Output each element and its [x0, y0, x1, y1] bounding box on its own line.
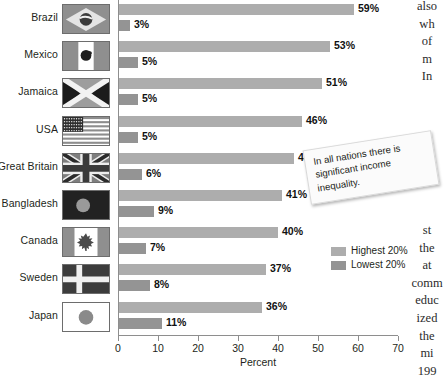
flag-bangladesh-icon [62, 190, 110, 220]
page-body-text-upper: alsowhofmIn [392, 0, 448, 86]
bar-value-lowest-20: 6% [146, 167, 161, 179]
x-tick [358, 336, 359, 341]
chart-row: Brazil59%3% [0, 1, 392, 42]
bar-value-lowest-20: 5% [142, 92, 157, 104]
chart-row: Mexico53%5% [0, 38, 392, 79]
body-text-line: In [392, 68, 448, 86]
bar-lowest-20 [118, 57, 138, 68]
bar-highest-20 [118, 302, 262, 313]
body-text-line: wh [392, 16, 448, 34]
bar-value-lowest-20: 9% [158, 204, 173, 216]
body-text-line: also [392, 0, 448, 16]
bar-highest-20 [118, 4, 354, 15]
chart-row: Japan36%11% [0, 299, 392, 340]
bar-highest-20 [118, 153, 294, 164]
bar-lowest-20 [118, 318, 162, 329]
x-tick [198, 336, 199, 341]
legend-swatch-icon [331, 247, 346, 256]
bar-value-lowest-20: 11% [166, 316, 186, 328]
page-body-text-lower: sttheatcommeducizedthemi199 [392, 222, 448, 379]
x-tick-label: 20 [192, 342, 204, 354]
body-text-line: 199 [392, 363, 448, 379]
x-tick [318, 336, 319, 341]
bar-value-highest-20: 40% [282, 225, 303, 237]
bar-value-lowest-20: 8% [154, 278, 169, 290]
body-text-line: ized [392, 310, 448, 328]
body-text-line: at [392, 257, 448, 275]
x-tick-label: 0 [115, 342, 121, 354]
country-label: Japan [0, 309, 58, 321]
country-label: Bangladesh [0, 197, 58, 209]
callout-note-text: In all nations there is significant inco… [312, 137, 431, 195]
bar-highest-20 [118, 264, 266, 275]
country-label: Jamaica [0, 85, 58, 97]
bar-highest-20 [118, 78, 322, 89]
flag-great-britain-icon [62, 153, 110, 183]
body-text-line: of [392, 33, 448, 51]
body-text-line: the [392, 240, 448, 258]
bar-lowest-20 [118, 132, 138, 143]
bar-value-highest-20: 37% [270, 262, 291, 274]
x-axis-title: Percent [240, 356, 276, 368]
y-axis-line [118, 0, 119, 336]
income-inequality-chart: Brazil59%3%Mexico53%5%Jamaica51%5%USA46%… [0, 0, 392, 372]
body-text-line: the [392, 328, 448, 346]
legend-swatch-icon [331, 261, 346, 270]
bar-lowest-20 [118, 243, 146, 254]
x-tick [118, 336, 119, 341]
bar-value-highest-20: 59% [358, 2, 379, 14]
x-tick [238, 336, 239, 341]
bar-lowest-20 [118, 20, 130, 31]
bar-value-lowest-20: 5% [142, 55, 157, 67]
country-label: Brazil [0, 11, 58, 23]
bar-value-highest-20: 36% [266, 300, 287, 312]
bar-value-highest-20: 41% [286, 188, 307, 200]
body-text-line: educ [392, 292, 448, 310]
bar-value-highest-20: 46% [306, 114, 327, 126]
flag-canada-icon [62, 227, 110, 257]
body-text-line: mi [392, 345, 448, 363]
x-tick [278, 336, 279, 341]
flag-jamaica-icon [62, 78, 110, 108]
bar-lowest-20 [118, 94, 138, 105]
bar-value-highest-20: 51% [326, 76, 347, 88]
bar-lowest-20 [118, 206, 154, 217]
bar-lowest-20 [118, 169, 142, 180]
bar-value-lowest-20: 3% [134, 18, 149, 30]
flag-mexico-icon [62, 41, 110, 71]
bar-lowest-20 [118, 280, 150, 291]
body-text-line: comm [392, 275, 448, 293]
bar-value-lowest-20: 5% [142, 130, 157, 142]
x-tick-label: 10 [152, 342, 164, 354]
bar-value-lowest-20: 7% [150, 241, 165, 253]
country-label: Mexico [0, 48, 58, 60]
x-axis-line [118, 335, 398, 336]
flag-japan-icon [62, 302, 110, 332]
country-label: Great Britain [0, 160, 58, 172]
bar-highest-20 [118, 41, 330, 52]
flag-usa-icon [62, 116, 110, 146]
body-text-line: m [392, 51, 448, 69]
bar-highest-20 [118, 227, 278, 238]
bar-value-highest-20: 53% [334, 39, 355, 51]
x-tick [158, 336, 159, 341]
chart-row: Canada40%7% [0, 224, 392, 265]
bar-highest-20 [118, 116, 302, 127]
x-tick-label: 50 [312, 342, 324, 354]
flag-sweden-icon [62, 264, 110, 294]
country-label: Sweden [0, 271, 58, 283]
bar-highest-20 [118, 190, 282, 201]
x-tick-label: 30 [232, 342, 244, 354]
country-label: Canada [0, 234, 58, 246]
flag-brazil-icon [62, 4, 110, 34]
body-text-line: st [392, 222, 448, 240]
x-tick-label: 40 [272, 342, 284, 354]
x-tick-label: 60 [352, 342, 364, 354]
country-label: USA [0, 123, 58, 135]
chart-row: Jamaica51%5% [0, 75, 392, 116]
